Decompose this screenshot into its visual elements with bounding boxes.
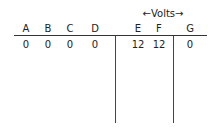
header-rule: [14, 35, 207, 36]
right-arrow-icon: →: [175, 8, 183, 19]
column-header-c: C: [62, 23, 78, 34]
column-divider-1: [115, 36, 116, 123]
column-divider-2: [173, 36, 174, 123]
value-d: 0: [85, 39, 105, 50]
column-header-g: G: [182, 23, 198, 34]
value-c: 0: [60, 39, 80, 50]
value-a: 0: [16, 39, 36, 50]
left-arrow-icon: ←: [143, 8, 151, 19]
column-header-e: E: [130, 23, 146, 34]
column-header-a: A: [18, 23, 34, 34]
volts-label: Volts: [151, 8, 175, 19]
value-g: 0: [180, 39, 200, 50]
column-header-d: D: [87, 23, 103, 34]
column-header-f: F: [151, 23, 167, 34]
volts-group-label: ←Volts→: [132, 8, 194, 19]
value-b: 0: [38, 39, 58, 50]
value-e: 12: [128, 39, 148, 50]
column-header-b: B: [40, 23, 56, 34]
value-f: 12: [149, 39, 169, 50]
